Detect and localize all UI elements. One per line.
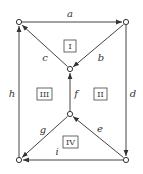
region-I: I [68, 42, 71, 51]
label-b: b [98, 52, 104, 63]
label-c: c [42, 52, 48, 63]
edge-g [22, 117, 68, 158]
label-f: f [73, 88, 80, 99]
region-II: II [97, 90, 103, 99]
label-h: h [9, 88, 15, 99]
directed-graph-diagram: a b c d e f g h i I II III IV [0, 0, 143, 174]
node-middle-upper [67, 66, 72, 71]
node-bottom-left [16, 157, 21, 162]
node-top-right [123, 19, 128, 24]
label-i: i [55, 146, 58, 157]
label-e: e [97, 123, 103, 134]
label-a: a [67, 8, 73, 19]
label-g: g [40, 124, 46, 135]
region-IV: IV [66, 138, 75, 147]
node-bottom-right [123, 157, 128, 162]
label-d: d [130, 88, 136, 99]
node-top-left [16, 19, 21, 24]
region-III: III [40, 90, 49, 99]
node-middle-lower [67, 111, 72, 116]
